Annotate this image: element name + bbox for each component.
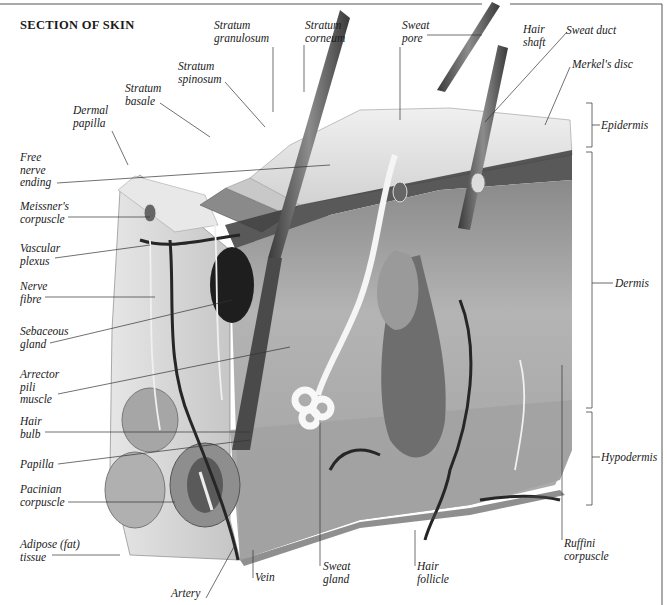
label-adipose-tissue: Adipose (fat) tissue xyxy=(20,538,80,563)
meissner-corpuscle-shape xyxy=(393,182,407,202)
label-sweat-gland: Sweat gland xyxy=(323,560,350,585)
label-sweat-pore: Sweat pore xyxy=(402,19,429,44)
label-hair-shaft: Hair shaft xyxy=(523,23,545,48)
label-vascular-plexus: Vascular plexus xyxy=(20,242,60,267)
label-pacinian-corpuscle: Pacinian corpuscle xyxy=(20,483,65,508)
label-meissners-corpuscle: Meissner's corpuscle xyxy=(20,200,69,225)
label-merkels-disc: Merkel's disc xyxy=(572,58,633,71)
label-stratum-corneum: Stratum corneum xyxy=(305,19,345,44)
adipose-lobe xyxy=(105,452,165,528)
label-sweat-duct: Sweat duct xyxy=(566,24,616,37)
adipose-lobe xyxy=(122,388,178,452)
label-artery: Artery xyxy=(171,587,200,600)
label-hair-bulb: Hair bulb xyxy=(20,415,42,440)
hair-shaft-2 xyxy=(437,2,500,92)
label-arrector-pili-muscle: Arrector pili muscle xyxy=(20,368,59,406)
label-vein: Vein xyxy=(255,571,275,584)
layer-label-epidermis: Epidermis xyxy=(601,119,648,132)
label-dermal-papilla: Dermal papilla xyxy=(73,104,108,129)
layer-label-hypodermis: Hypodermis xyxy=(601,451,657,464)
label-stratum-spinosum: Stratum spinosum xyxy=(178,60,221,85)
label-nerve-fibre: Nerve fibre xyxy=(20,280,47,305)
label-stratum-granulosum: Stratum granulosum xyxy=(214,19,269,44)
meissner-corpuscle-shape xyxy=(471,173,485,193)
label-ruffini-corpuscle: Ruffini corpuscle xyxy=(564,537,609,562)
skin-section-diagram: SECTION OF SKIN Stratum granulosum Strat… xyxy=(0,0,667,605)
label-sebaceous-gland: Sebaceous gland xyxy=(20,325,69,350)
layer-label-dermis: Dermis xyxy=(615,277,649,290)
layer-brackets xyxy=(586,103,613,505)
label-papilla: Papilla xyxy=(20,458,54,471)
skin-illustration xyxy=(0,0,667,605)
label-hair-follicle: Hair follicle xyxy=(417,560,449,585)
label-free-nerve-ending: Free nerve ending xyxy=(20,151,51,189)
diagram-title: SECTION OF SKIN xyxy=(20,18,134,33)
meissner-corpuscle-shape xyxy=(144,204,156,222)
label-stratum-basale: Stratum basale xyxy=(125,82,161,107)
